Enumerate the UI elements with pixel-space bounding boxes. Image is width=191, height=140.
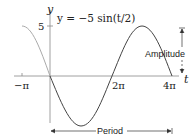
- y-axis-label: y: [46, 3, 54, 16]
- period-arrowhead-left-icon: [51, 129, 55, 133]
- period-arrowhead-right-icon: [167, 129, 171, 133]
- t-axis-label: t: [184, 73, 189, 86]
- amplitude-arrowhead-up-icon: [180, 29, 184, 33]
- amplitude-label: Amplitude: [145, 49, 185, 59]
- tick-label-4pi: 4π: [163, 80, 176, 91]
- equation-label: y = −5 sin(t/2): [56, 12, 135, 24]
- period-label: Period: [97, 126, 123, 136]
- tick-label-5: 5: [38, 21, 44, 32]
- tick-label-neg-pi: −π: [14, 80, 29, 91]
- tick-label-2pi: 2π: [112, 80, 125, 91]
- sine-graph: y y = −5 sin(t/2) 5 −π 2π 4π t Amplitude…: [0, 0, 191, 140]
- curve-gray-segment: [22, 26, 50, 76]
